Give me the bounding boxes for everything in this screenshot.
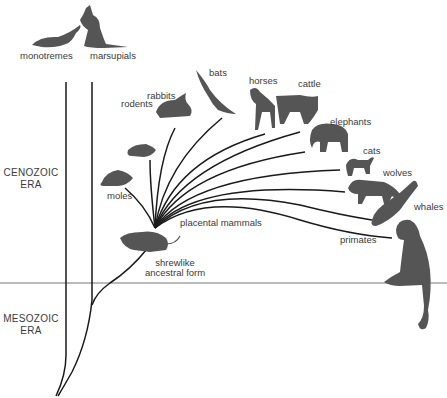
label-elephants: elephants [330,117,371,127]
label-horses: horses [249,76,278,86]
shrew-icon [120,232,168,252]
label-marsupials: marsupials [90,51,136,61]
rodent-icon [128,144,157,157]
marsupial-branch [58,82,92,396]
label-cats: cats [363,146,380,156]
elephant-icon [310,124,348,152]
monotreme-branch [56,82,66,396]
placental-stem [92,249,147,305]
label-shrewlike-line2: ancestral form [145,268,205,278]
kangaroo-icon [80,5,128,48]
evolution-diagram: CENOZOIC ERA MESOZOIC ERA monotremes mar… [0,0,447,398]
label-monotremes: monotremes [20,51,73,61]
platypus-icon [32,25,81,47]
label-shrewlike-ancestor: shrewlike ancestral form [145,258,205,277]
label-bats: bats [209,68,227,78]
label-cattle: cattle [298,79,321,89]
monkey-icon [384,220,431,330]
mole-icon [100,170,133,186]
horse-icon [250,88,275,130]
label-primates: primates [340,235,376,245]
label-rabbits: rabbits [147,91,176,101]
label-moles: moles [107,191,132,201]
cat-icon [346,157,374,176]
era-label-cenozoic: CENOZOIC ERA [2,167,60,190]
era-label-mesozoic-line2: ERA [2,325,60,337]
cattle-icon [276,95,318,124]
label-whales: whales [414,202,444,212]
label-placental-mammals: placental mammals [180,218,262,228]
label-wolves: wolves [383,168,412,178]
era-label-mesozoic: MESOZOIC ERA [2,313,60,336]
era-label-mesozoic-line1: MESOZOIC [2,313,60,325]
era-label-cenozoic-line1: CENOZOIC [2,167,60,179]
era-label-cenozoic-line2: ERA [2,179,60,191]
